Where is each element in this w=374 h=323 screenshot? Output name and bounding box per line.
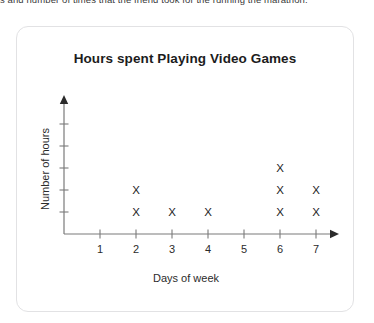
cut-off-question-text: s and number of times that the friend to… [0, 0, 374, 6]
data-point-marker: X [276, 184, 284, 196]
data-point-marker: X [312, 206, 320, 218]
x-axis-label: Days of week [17, 272, 355, 284]
data-point-marker: X [276, 162, 284, 174]
x-axis-tick-label: 5 [241, 243, 247, 255]
data-point-marker: X [132, 184, 140, 196]
data-point-marker: X [168, 206, 176, 218]
y-axis-label: Number of hours [39, 104, 51, 234]
data-point-marker: X [276, 206, 284, 218]
x-axis-tick-label: 1 [97, 243, 103, 255]
chart-svg: 12XX3X4X56XXX7XX [17, 27, 355, 313]
data-point-marker: X [204, 206, 212, 218]
x-axis-tick-label: 2 [133, 243, 139, 255]
x-axis-arrow-icon [330, 230, 339, 238]
chart-card: Hours spent Playing Video Games 12XX3X4X… [16, 26, 354, 312]
x-axis-tick-label: 4 [205, 243, 211, 255]
x-axis-tick-label: 6 [277, 243, 283, 255]
y-axis-arrow-icon [60, 95, 68, 104]
x-axis-tick-label: 7 [313, 243, 319, 255]
plot-area: 12XX3X4X56XXX7XX [17, 27, 355, 313]
data-point-marker: X [132, 206, 140, 218]
x-axis-tick-label: 3 [169, 243, 175, 255]
data-point-marker: X [312, 184, 320, 196]
